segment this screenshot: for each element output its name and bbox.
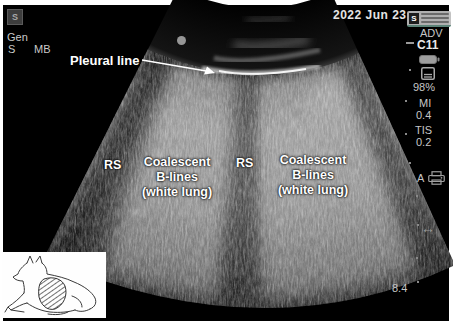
mode-mb-label: MB — [34, 43, 51, 55]
depth-tick — [409, 162, 411, 164]
depth-tick — [416, 195, 418, 197]
dog-position-diagram — [2, 252, 106, 318]
depth-tick — [409, 69, 411, 71]
orientation-marker-dot — [177, 36, 186, 45]
depth-tick — [417, 281, 419, 283]
pleural-line-label: Pleural line — [70, 53, 139, 68]
watermark-logo-badge: S — [407, 11, 451, 27]
annotation-key-label[interactable]: A — [417, 172, 424, 184]
preset-label: Gen — [7, 31, 28, 43]
blines-label-left: Coalescent B-lines (white lung) — [117, 155, 237, 200]
depth-tick — [417, 224, 419, 226]
watermark-text-lines — [421, 13, 449, 23]
battery-icon — [419, 55, 440, 64]
mode-s-label: S — [8, 43, 15, 55]
depth-value-label: 8.4 — [392, 282, 407, 294]
mi-value: 0.4 — [416, 109, 431, 121]
depth-tick — [405, 100, 407, 102]
date-label: 2022 Jun 23 — [333, 8, 407, 22]
blines-label-right: Coalescent B-lines (white lung) — [253, 153, 373, 198]
rib-shadow-label-right: RS — [236, 156, 253, 170]
save-icon[interactable] — [421, 67, 435, 80]
s-logo-icon: S — [7, 9, 23, 25]
depth-tick — [416, 257, 418, 259]
tis-label: TIS — [415, 124, 432, 136]
scan-region-hatch — [39, 278, 66, 310]
swap-arrows-icon[interactable]: ↔ — [421, 220, 435, 236]
scan-position-inset — [2, 252, 106, 318]
s-logo-icon: S — [409, 13, 419, 24]
mi-label: MI — [419, 97, 431, 109]
ultrasound-screenshot: S Gen S MB 2022 Jun 23 S ADV C11 98% MI … — [0, 0, 453, 327]
focus-marker — [406, 42, 414, 44]
battery-percent-label: 98% — [413, 81, 435, 93]
tis-value: 0.2 — [416, 136, 431, 148]
printer-icon[interactable] — [428, 171, 445, 185]
depth-tick — [405, 133, 407, 135]
probe-label[interactable]: C11 — [417, 38, 438, 52]
